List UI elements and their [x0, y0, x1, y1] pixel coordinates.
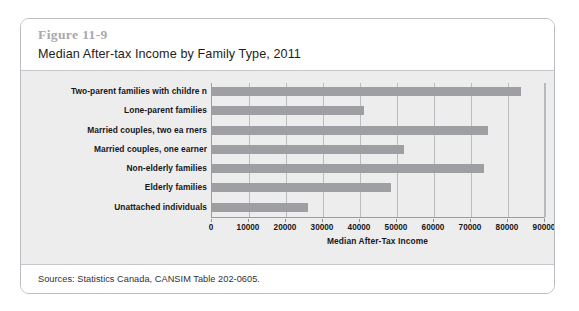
x-axis-title: Median After-Tax Income: [211, 236, 544, 246]
x-axis-tick: [248, 219, 249, 222]
category-label: Lone-parent families: [124, 103, 207, 117]
x-axis-tick-label: 40000: [348, 223, 371, 232]
bar: [212, 203, 308, 212]
x-axis-tick-label: 80000: [496, 223, 519, 232]
category-label: Non-elderly families: [126, 161, 207, 175]
category-label: Two-parent families with childre n: [71, 84, 207, 98]
x-axis-tick: [211, 219, 212, 222]
figure-header: Figure 11-9 Median After-tax Income by F…: [21, 19, 554, 71]
bar: [212, 87, 521, 96]
x-axis-tick-label: 30000: [311, 223, 334, 232]
x-axis-tick: [470, 219, 471, 222]
x-axis-tick: [359, 219, 360, 222]
category-label: Unattached individuals: [114, 200, 207, 214]
category-label: Married couples, two ea rners: [87, 123, 207, 137]
gridline: [545, 83, 546, 217]
bar-row: Married couples, one earner: [212, 141, 544, 160]
bar: [212, 106, 364, 115]
figure-card: Figure 11-9 Median After-tax Income by F…: [20, 18, 555, 294]
bar: [212, 145, 404, 154]
x-axis-tick: [433, 219, 434, 222]
figure-title: Median After-tax Income by Family Type, …: [38, 46, 554, 62]
figure-page: Figure 11-9 Median After-tax Income by F…: [0, 0, 579, 311]
x-axis-tick-label: 0: [209, 223, 214, 232]
x-axis-tick: [507, 219, 508, 222]
bar: [212, 183, 391, 192]
x-axis-tick-label: 90000: [533, 223, 554, 232]
bar-row: Non-elderly families: [212, 160, 544, 179]
bar: [212, 164, 484, 173]
bar-chart-plot: Two-parent families with childre nLone-p…: [211, 83, 544, 218]
chart-area: Two-parent families with childre nLone-p…: [21, 71, 554, 266]
figure-footer: Sources: Statistics Canada, CANSIM Table…: [21, 264, 554, 293]
x-axis-tick-label: 50000: [385, 223, 408, 232]
figure-number: Figure 11-9: [38, 27, 554, 43]
category-label: Married couples, one earner: [94, 142, 207, 156]
x-axis-tick-label: 70000: [459, 223, 482, 232]
x-axis-tick: [544, 219, 545, 222]
x-axis-tick-label: 20000: [274, 223, 297, 232]
x-axis-tick-label: 60000: [422, 223, 445, 232]
sources-note: Sources: Statistics Canada, CANSIM Table…: [38, 274, 260, 284]
bar: [212, 126, 488, 135]
x-axis-tick: [396, 219, 397, 222]
x-axis-tick-label: 10000: [237, 223, 260, 232]
bar-row: Unattached individuals: [212, 199, 544, 218]
bar-row: Lone-parent families: [212, 102, 544, 121]
bar-row: Elderly families: [212, 179, 544, 198]
x-axis-tick: [322, 219, 323, 222]
x-axis-tick: [285, 219, 286, 222]
category-label: Elderly families: [145, 180, 207, 194]
bar-row: Two-parent families with childre n: [212, 83, 544, 102]
bar-row: Married couples, two ea rners: [212, 122, 544, 141]
